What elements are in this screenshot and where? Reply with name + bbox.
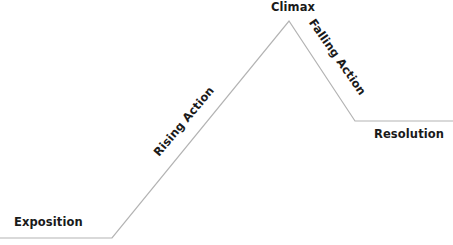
plot-structure-diagram bbox=[0, 0, 453, 245]
climax-label: Climax bbox=[271, 2, 315, 14]
exposition-label: Exposition bbox=[14, 217, 83, 229]
resolution-label: Resolution bbox=[374, 129, 444, 141]
